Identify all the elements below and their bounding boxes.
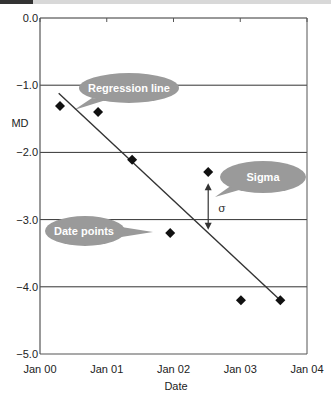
y-axis-ticks: 0.0−1.0−2.0−3.0−4.0−5.0 <box>16 12 38 360</box>
callout-regression-line-text: Regression line <box>88 82 170 94</box>
y-tick-label: −2.0 <box>16 146 38 158</box>
sigma-label: σ <box>218 202 226 215</box>
y-tick-label: −3.0 <box>16 214 38 226</box>
y-tick-label: −1.0 <box>16 79 38 91</box>
data-points <box>55 101 285 305</box>
sigma-arrow: σ <box>205 183 227 229</box>
x-tick-label: Jan 00 <box>23 363 56 375</box>
callout-sigma-text: Sigma <box>246 171 280 183</box>
md-vs-date-chart: 0.0−1.0−2.0−3.0−4.0−5.0 Jan 00Jan 01Jan … <box>0 0 331 402</box>
callout-regression-line: Regression line <box>74 73 179 110</box>
diamond-marker <box>93 107 103 117</box>
x-tick-label: Jan 04 <box>290 363 323 375</box>
x-tick-label: Jan 02 <box>157 363 190 375</box>
x-tick-label: Jan 03 <box>224 363 257 375</box>
y-tick-label: −4.0 <box>16 281 38 293</box>
y-axis-title: MD <box>11 117 28 129</box>
y-tick-label: 0.0 <box>23 12 38 24</box>
diamond-marker <box>203 167 213 177</box>
x-tick-label: Jan 01 <box>90 363 123 375</box>
sigma-arrow-head-up <box>205 183 212 190</box>
callout-date-points-text: Date points <box>54 225 114 237</box>
x-axis-title: Date <box>164 380 187 392</box>
diamond-marker <box>165 228 175 238</box>
callout-sigma: Sigma <box>215 161 306 197</box>
regression-line-path <box>59 93 281 300</box>
diamond-marker <box>55 101 65 111</box>
diamond-marker <box>127 155 137 165</box>
x-axis-ticks: Jan 00Jan 01Jan 02Jan 03Jan 04 <box>23 18 323 375</box>
y-tick-label: −5.0 <box>16 348 38 360</box>
sigma-arrow-head-down <box>205 223 212 230</box>
regression-line <box>59 93 281 300</box>
gridlines <box>40 18 307 287</box>
callout-date-points: Date points <box>45 216 153 246</box>
diamond-marker <box>236 295 246 305</box>
